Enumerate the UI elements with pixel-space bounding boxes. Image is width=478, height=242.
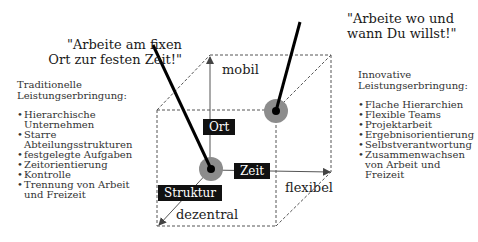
traditional-panel: Traditionelle Leistungserbringung: Hiera… — [17, 79, 167, 200]
traditional-quote: "Arbeite am fixen Ort zur festen Zeit!" — [40, 37, 182, 67]
innovative-list: Flache Hierarchien Flexible Teams Projek… — [358, 100, 478, 180]
list-item: Starre Abteilungsstrukturen — [17, 130, 167, 150]
innovative-quote: "Arbeite wo und wann Du willst!" — [347, 11, 477, 41]
quote-line: Ort zur festen Zeit!" — [40, 52, 182, 67]
traditional-panel-title: Traditionelle Leistungserbringung: — [17, 79, 167, 101]
list-item: Hierarchische Unternehmen — [17, 110, 167, 130]
axis-label-dezentral: dezentral — [176, 207, 238, 222]
axis-label-flexibel: flexibel — [285, 180, 333, 195]
list-item: Trennung von Arbeit und Freizeit — [17, 180, 144, 200]
innovative-panel: Innovative Leistungserbringung: Flache H… — [358, 69, 478, 180]
innovative-panel-title: Innovative Leistungserbringung: — [358, 69, 478, 91]
quote-line: "Arbeite am fixen — [40, 37, 182, 52]
quote-line: "Arbeite wo und — [347, 11, 477, 26]
dimension-box-ort: Ort — [203, 119, 235, 135]
axis-label-mobil: mobil — [222, 62, 259, 77]
dimension-box-zeit: Zeit — [234, 163, 270, 179]
traditional-list: Hierarchische Unternehmen Starre Abteilu… — [17, 110, 167, 200]
quote-line: wann Du willst!" — [347, 26, 477, 41]
dimension-box-struktur: Struktur — [158, 185, 222, 201]
list-item: Zusammenwachsen von Arbeit und Freizeit — [358, 150, 477, 180]
